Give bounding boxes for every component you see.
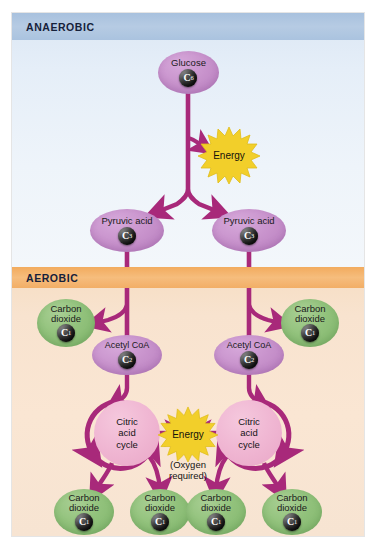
energy-label-krebs: Energy [172,429,204,440]
co2-bottom-1-label: Carbon dioxide [68,493,99,513]
citric-acid-cycle-right-label: Citric acid cycle [238,416,260,450]
node-pyruvic-acid-right: Pyruvic acid C3 [212,209,286,252]
carbon-count: 3 [129,233,132,240]
node-co2-bottom-1: Carbon dioxide C1 [54,489,114,535]
carbon-symbol: C [244,231,251,241]
carbon-symbol: C [211,517,218,527]
energy-burst-glycolysis: Energy [198,126,260,184]
carbon-symbol: C [155,517,162,527]
carbon-count: 1 [294,519,297,526]
carbon-sphere-co2-mid-right: C1 [301,324,319,342]
acetyl-right-label: Acetyl CoA [227,341,272,350]
carbon-symbol: C [287,517,294,527]
pyruvic-left-label: Pyruvic acid [101,216,152,226]
node-acetyl-coa-left: Acetyl CoA C2 [92,335,162,375]
arrow-acetyl-right-to-co2 [249,305,280,323]
co2-mid-left-label: Carbon dioxide [50,304,81,324]
respiration-diagram-figure: ANAEROBIC AEROBIC Glucose C6 Energy [0,0,376,548]
arrow-acetyl-right-to-cycle [249,372,260,403]
carbon-count: 6 [190,75,193,82]
carbon-symbol: C [122,355,129,365]
carbon-sphere-co2-bottom-3: C1 [207,513,225,531]
citric-acid-cycle-left-label: Citric acid cycle [116,416,138,450]
carbon-sphere-co2-bottom-2: C1 [151,513,169,531]
arrow-acetyl-left-to-cycle [116,372,127,403]
carbon-count: 1 [68,330,71,337]
carbon-sphere-acetyl-right: C2 [240,351,258,369]
carbon-count: 1 [86,519,89,526]
anaerobic-band: ANAEROBIC [12,13,364,40]
carbon-sphere-co2-bottom-4: C1 [283,513,301,531]
carbon-count: 1 [218,519,221,526]
citric-acid-cycle-right: Citric acid cycle [216,400,282,466]
node-co2-mid-right: Carbon dioxide C1 [281,299,339,347]
node-co2-bottom-3: Carbon dioxide C1 [186,489,246,535]
glucose-label: Glucose [171,58,206,68]
carbon-sphere-pyruvic-right: C3 [240,227,258,245]
carbon-sphere-pyruvic-left: C3 [118,227,136,245]
co2-mid-right-label: Carbon dioxide [294,304,325,324]
energy-label-glycolysis: Energy [213,150,245,161]
carbon-symbol: C [305,328,312,338]
arrow-cycle-left-to-co2-1 [96,463,112,490]
carbon-count: 3 [251,233,254,240]
carbon-symbol: C [244,355,251,365]
citric-acid-cycle-left: Citric acid cycle [94,400,160,466]
carbon-sphere-co2-mid-left: C1 [57,324,75,342]
node-co2-bottom-2: Carbon dioxide C1 [130,489,190,535]
node-co2-mid-left: Carbon dioxide C1 [37,299,95,347]
node-acetyl-coa-right: Acetyl CoA C2 [214,335,284,375]
arrow-acetyl-left-to-co2 [96,305,127,323]
pyruvic-right-label: Pyruvic acid [223,216,274,226]
carbon-sphere-glucose: C6 [179,69,197,87]
carbon-symbol: C [122,231,129,241]
node-glucose: Glucose C6 [158,51,219,94]
carbon-count: 1 [162,519,165,526]
aerobic-band: AEROBIC [12,267,364,288]
carbon-symbol: C [79,517,86,527]
carbon-count: 2 [251,357,254,364]
aerobic-band-label: AEROBIC [12,272,78,284]
diagram-panel: ANAEROBIC AEROBIC Glucose C6 Energy [12,13,364,536]
arrow-cycle-right-to-co2-2 [264,463,280,490]
oxygen-required-note: (Oxygen required) [152,459,224,481]
energy-burst-krebs: Energy [157,406,219,462]
carbon-count: 2 [129,357,132,364]
carbon-symbol: C [61,328,68,338]
acetyl-left-label: Acetyl CoA [105,341,150,350]
carbon-count: 1 [312,330,315,337]
carbon-symbol: C [183,73,190,83]
carbon-sphere-acetyl-left: C2 [118,351,136,369]
node-pyruvic-acid-left: Pyruvic acid C3 [90,209,164,252]
co2-bottom-3-label: Carbon dioxide [200,493,231,513]
co2-bottom-2-label: Carbon dioxide [144,493,175,513]
node-co2-bottom-4: Carbon dioxide C1 [262,489,322,535]
carbon-sphere-co2-bottom-1: C1 [75,513,93,531]
co2-bottom-4-label: Carbon dioxide [276,493,307,513]
anaerobic-band-label: ANAEROBIC [12,21,95,33]
